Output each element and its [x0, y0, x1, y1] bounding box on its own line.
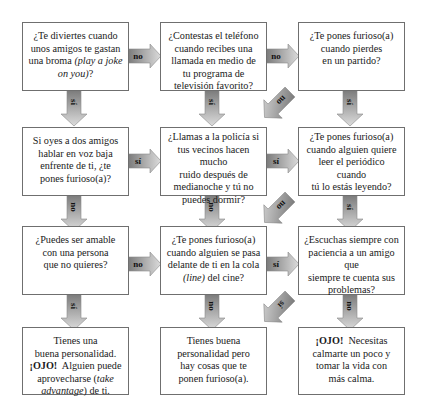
- arrow-label: no: [133, 259, 143, 269]
- question-box-q6: ¿Te pones furioso(a) cuando alguien quie…: [298, 127, 405, 196]
- text-line: (line) del cine?: [183, 272, 244, 283]
- arrow-label: sí: [273, 259, 280, 269]
- text-line: ¡OJO! Alguien puede: [30, 360, 122, 371]
- text-line: aprovecharse (take: [37, 373, 114, 384]
- arrow-label: sí: [345, 204, 355, 211]
- italic-text: on you): [58, 68, 89, 79]
- arrow-q1-q4: sí: [61, 90, 87, 126]
- arrow-label: sí: [345, 99, 355, 106]
- arrow-q5-q6: sí: [266, 149, 299, 173]
- question-box-q1: ¿Te diviertes cuando unos amigos te gast…: [22, 22, 129, 91]
- arrow-label: no: [207, 301, 217, 311]
- italic-text: take: [97, 373, 114, 384]
- arrow-label: no: [133, 51, 143, 61]
- flowchart-canvas: no no sí sí sí no sí s: [0, 0, 427, 419]
- result-box-r2: Tienes buena personalidad pero hay cosas…: [160, 327, 267, 395]
- question-box-q2: ¿Contestas el teléfono cuando recibes un…: [160, 22, 267, 91]
- result-box-r1: Tienes una buena personalidad. ¡OJO! Alg…: [22, 327, 129, 395]
- result-box-r3: ¡OJO! Necesitas calmarte un poco y tomar…: [298, 327, 405, 395]
- question-box-q5: ¿Llamas a la policía si tus vecinos hace…: [160, 127, 267, 196]
- arrow-label: sí: [69, 99, 79, 106]
- arrow-q4-q5: sí: [128, 149, 161, 173]
- arrow-label: no: [345, 301, 355, 311]
- arrow-q2-q5: sí: [199, 90, 225, 126]
- text-line: advantage) de ti.: [41, 385, 110, 396]
- arrow-q8-r2: no: [199, 294, 225, 330]
- arrow-label: no: [69, 202, 79, 212]
- arrow-label: sí: [135, 156, 142, 166]
- arrow-q9-r3: no: [337, 294, 363, 330]
- warning-text: ¡OJO!: [30, 360, 58, 371]
- italic-text: advantage: [41, 385, 83, 396]
- arrow-q2-q3: no: [266, 44, 299, 68]
- arrow-q7-r1: sí: [61, 294, 87, 330]
- arrow-q7-q8: no: [128, 252, 161, 276]
- italic-text: (play a joke: [74, 55, 122, 66]
- question-box-q7: ¿Puedes ser amable con una persona que n…: [22, 226, 129, 295]
- question-box-q9: ¿Escuchas siempre con paciencia a un ami…: [298, 226, 405, 295]
- arrow-label: no: [271, 51, 281, 61]
- arrow-label: sí: [273, 156, 280, 166]
- text-line: ¡OJO! Necesitas: [316, 335, 388, 346]
- question-box-q4: Si oyes a dos amigos hablar en voz baja …: [22, 127, 129, 196]
- arrow-label: sí: [207, 99, 217, 106]
- italic-text: (line): [183, 272, 205, 283]
- text-line: una broma (play a joke: [29, 55, 123, 66]
- arrow-q1-q2: no: [128, 44, 161, 68]
- arrow-label: sí: [69, 303, 79, 310]
- arrow-q3-q6: sí: [337, 90, 363, 126]
- arrow-q8-q9: sí: [266, 252, 299, 276]
- warning-text: ¡OJO!: [316, 335, 344, 346]
- question-box-q8: ¿Te pones furioso(a) cuando alguien se p…: [160, 226, 267, 295]
- question-box-q3: ¿Te pones furioso(a) cuando pierdes en u…: [298, 22, 405, 91]
